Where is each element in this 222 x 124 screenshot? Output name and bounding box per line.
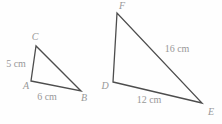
vertex-label-F: F: [118, 0, 126, 11]
vertex-label-E: E: [207, 106, 214, 117]
triangles-diagram-canvas: ABC5 cm6 cmDEF16 cm12 cm: [0, 0, 222, 124]
vertex-label-C: C: [32, 31, 39, 42]
triangle-DEF: DEF16 cm12 cm: [100, 0, 214, 117]
side-length-label: 16 cm: [165, 43, 190, 54]
vertex-label-B: B: [81, 92, 87, 103]
side-length-label: 12 cm: [137, 94, 162, 105]
side-length-label: 5 cm: [6, 58, 26, 69]
vertex-label-A: A: [22, 80, 30, 91]
triangle-ABC-outline: [31, 46, 81, 91]
similar-triangles-figure: ABC5 cm6 cmDEF16 cm12 cm: [0, 0, 222, 124]
triangle-ABC: ABC5 cm6 cm: [6, 31, 87, 103]
triangle-DEF-outline: [113, 13, 202, 103]
side-length-label: 6 cm: [37, 91, 57, 102]
vertex-label-D: D: [100, 80, 109, 91]
